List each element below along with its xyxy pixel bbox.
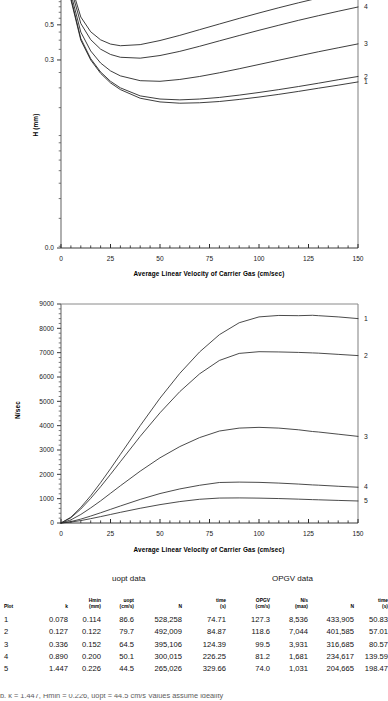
- table-cell: 127.3: [226, 613, 270, 625]
- chart-n-x-axis-title: Average Linear Velocity of Carrier Gas (…: [133, 546, 284, 554]
- figure-footnote-text: b. k = 1.447, Hmin = 0.226, uopt = 44.5 …: [0, 694, 388, 700]
- chart-n-axes: [61, 304, 358, 523]
- chart-n-curves: [61, 315, 358, 523]
- chart-n-x-tick-labels: 0255075100125150: [59, 530, 364, 537]
- n-curve-label-2: 2: [364, 352, 368, 359]
- table-cell: 50.83: [354, 613, 388, 625]
- table-cell: 0.200: [68, 650, 101, 662]
- chart-h-curves: [62, 0, 358, 103]
- figure-container: 0.00.30.50.81.0 12345 0255075100125150 H…: [0, 0, 388, 701]
- table-cell: 0.114: [68, 613, 101, 625]
- chart-h-svg: 0.00.30.50.81.0 12345 0255075100125150 H…: [0, 0, 388, 278]
- svg-text:4000: 4000: [39, 422, 54, 429]
- table-header-unit: (s): [182, 604, 226, 610]
- svg-text:0: 0: [50, 519, 54, 526]
- table-cell: 0.152: [68, 638, 101, 650]
- svg-text:1000: 1000: [39, 495, 54, 502]
- svg-text:100: 100: [253, 255, 264, 262]
- table-row: 51.4470.22644.5265,026329.6674.01,031204…: [0, 663, 388, 675]
- h-curve-label-4: 4: [364, 3, 368, 10]
- table-cell: 0.226: [68, 663, 101, 675]
- table-cell: 74.0: [226, 663, 270, 675]
- table-header-name: N: [350, 604, 354, 609]
- svg-text:150: 150: [352, 255, 363, 262]
- table-header-name: k: [65, 604, 68, 609]
- table-cell: 139.59: [354, 650, 388, 662]
- section-caption-opgv: OPGV data: [272, 574, 313, 583]
- svg-text:150: 150: [352, 530, 363, 537]
- table-header-name: Plot: [4, 604, 13, 609]
- chart-h-y-ticks: 0.00.30.50.81.0: [45, 0, 61, 251]
- data-table-wrapper: PlotkHmin(mm)uopt(cm/s)Ntime(s)OPGV(cm/s…: [0, 598, 388, 675]
- table-cell: 1,031: [270, 663, 308, 675]
- svg-text:9000: 9000: [39, 300, 54, 307]
- n-curve-label-3: 3: [364, 433, 368, 440]
- chart-h-x-axis-title: Average Linear Velocity of Carrier Gas (…: [133, 270, 284, 278]
- h-curve-label-3: 3: [364, 40, 368, 47]
- table-cell: 74.71: [182, 613, 226, 625]
- table-header-k: k: [30, 598, 68, 613]
- svg-text:0.3: 0.3: [45, 56, 54, 63]
- data-table-head: PlotkHmin(mm)uopt(cm/s)Ntime(s)OPGV(cm/s…: [0, 598, 388, 613]
- n-curve-label-5: 5: [364, 497, 368, 504]
- table-cell: 316,685: [308, 638, 354, 650]
- svg-text:7000: 7000: [39, 349, 54, 356]
- chart-h-x-ticks: [61, 244, 358, 248]
- h-curve-2: [62, 0, 358, 100]
- chart-n-y-axis-title: N/sec: [14, 401, 21, 419]
- svg-text:75: 75: [206, 530, 214, 537]
- table-row: 40.8900.20050.1300,015226.2581.21,681234…: [0, 650, 388, 662]
- table-header-hmin: Hmin(mm): [68, 598, 101, 613]
- table-header-n: N: [134, 598, 182, 613]
- table-cell: 99.5: [226, 638, 270, 650]
- table-cell: 4: [0, 650, 30, 662]
- table-header-unit: (mm): [68, 604, 101, 610]
- table-cell: 433,905: [308, 613, 354, 625]
- table-cell: 57.01: [354, 626, 388, 638]
- table-header-unit: (s): [354, 604, 388, 610]
- svg-text:8000: 8000: [39, 325, 54, 332]
- svg-text:0: 0: [59, 255, 63, 262]
- svg-text:125: 125: [303, 255, 314, 262]
- table-header-name: uopt: [123, 598, 134, 603]
- table-header-name: time: [216, 598, 226, 603]
- table-header-time: time(s): [354, 598, 388, 613]
- table-header-name: N/s: [300, 598, 308, 603]
- table-header-name: time: [378, 598, 388, 603]
- table-header-row: PlotkHmin(mm)uopt(cm/s)Ntime(s)OPGV(cm/s…: [0, 598, 388, 613]
- n-curve-4: [61, 482, 358, 523]
- svg-text:0: 0: [59, 530, 63, 537]
- table-cell: 84.87: [182, 626, 226, 638]
- table-cell: 7,044: [270, 626, 308, 638]
- table-header-name: N: [178, 604, 182, 609]
- table-cell: 234,617: [308, 650, 354, 662]
- h-curve-3: [62, 0, 358, 81]
- table-cell: 81.2: [226, 650, 270, 662]
- svg-text:25: 25: [107, 255, 115, 262]
- table-row: 30.3360.15264.5395,106124.3999.53,931316…: [0, 638, 388, 650]
- svg-text:0.5: 0.5: [45, 21, 54, 28]
- table-cell: 1: [0, 613, 30, 625]
- table-cell: 79.7: [101, 626, 134, 638]
- table-cell: 3,931: [270, 638, 308, 650]
- svg-text:3000: 3000: [39, 446, 54, 453]
- chart-h-curve-labels: 12345: [364, 0, 368, 85]
- table-header-uopt: uopt(cm/s): [101, 598, 134, 613]
- svg-text:6000: 6000: [39, 373, 54, 380]
- n-curve-label-1: 1: [364, 315, 368, 322]
- data-table-body: 10.0780.11486.6528,25874.71127.38,536433…: [0, 613, 388, 675]
- h-curve-5: [62, 0, 358, 46]
- chart-h-vs-velocity: 0.00.30.50.81.0 12345 0255075100125150 H…: [0, 0, 388, 278]
- svg-text:75: 75: [206, 255, 214, 262]
- table-cell: 198.47: [354, 663, 388, 675]
- table-header-name: Hmin: [89, 598, 101, 603]
- svg-text:100: 100: [253, 530, 264, 537]
- h-curve-label-2: 2: [364, 73, 368, 80]
- chart-n-y-ticks: 0100020003000400050006000700080009000: [39, 300, 61, 526]
- svg-text:125: 125: [303, 530, 314, 537]
- table-cell: 395,106: [134, 638, 182, 650]
- table-cell: 528,258: [134, 613, 182, 625]
- chart-n-svg: 0100020003000400050006000700080009000 12…: [0, 290, 388, 568]
- svg-text:2000: 2000: [39, 471, 54, 478]
- svg-text:5000: 5000: [39, 398, 54, 405]
